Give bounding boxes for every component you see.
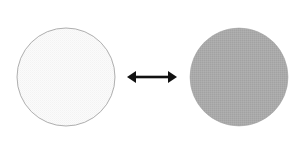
arrow-shaft — [134, 76, 170, 79]
left-circle-group — [17, 28, 115, 126]
left-circle-texture — [17, 28, 115, 126]
right-circle-texture — [190, 28, 288, 126]
figure-canvas: Two circles connected by a double-headed… — [0, 0, 306, 152]
circles-arrow-diagram — [0, 0, 306, 152]
right-circle-group — [190, 28, 288, 126]
